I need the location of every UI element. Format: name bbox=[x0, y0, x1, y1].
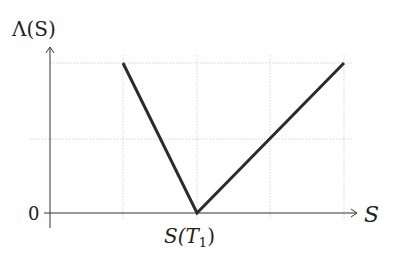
vertex-label: S(T1) bbox=[164, 224, 215, 250]
axes bbox=[44, 47, 357, 228]
origin-label: 0 bbox=[28, 203, 39, 224]
payoff-line bbox=[123, 63, 344, 213]
y-axis-label: Λ(S) bbox=[11, 17, 56, 41]
grid bbox=[30, 55, 352, 220]
x-axis-label: S bbox=[364, 202, 379, 227]
payoff-chart: Λ(S) S 0 S(T1) bbox=[0, 0, 402, 261]
